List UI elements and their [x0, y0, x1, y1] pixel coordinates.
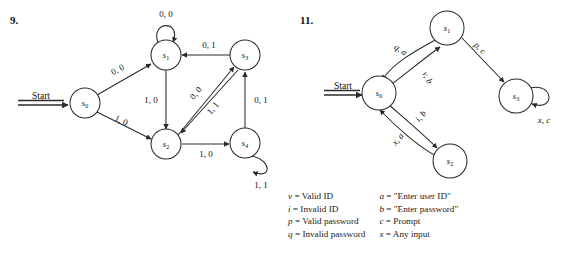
legend-text: Valid ID — [302, 191, 333, 201]
edge-label-s0-s1: v, b — [420, 70, 435, 86]
legend-item: q = Invalid password — [288, 228, 365, 241]
edge-label-s1-s3: p, c — [471, 39, 488, 56]
legend-item: a = "Enter user ID" — [379, 190, 458, 203]
legend-equals: = — [295, 229, 300, 239]
legend-text: Prompt — [393, 216, 420, 226]
legend-equals: = — [294, 191, 299, 201]
edge-label-s0-s2: i, b — [413, 108, 428, 124]
legend-text: Invalid ID — [300, 204, 338, 214]
edge-s4-s4-selfloop — [252, 156, 267, 174]
legend-text: "Enter password" — [394, 204, 458, 214]
edge-label-s2-s4: 1, 0 — [199, 149, 213, 159]
legend-symbol: x — [379, 229, 383, 239]
edge-label-s3-s3: x, c — [537, 115, 551, 125]
edge-label-s3-s1: 0, 1 — [202, 40, 216, 50]
edge-label-s0-s1: 0, 0 — [109, 61, 126, 77]
legend-item: c = Prompt — [379, 215, 458, 228]
edge-label-s1-s1: 0, 0 — [159, 9, 173, 19]
figure-11-diagram: Start q, a v, b p, c i, b x, a x, c s0 s… — [282, 0, 564, 190]
legend-item: x = Any input — [379, 228, 458, 241]
legend-text: "Enter user ID" — [394, 191, 451, 201]
legend-equals: = — [386, 204, 391, 214]
legend-item: p = Valid password — [288, 215, 365, 228]
edge-label-s0-s2: 1, 0 — [113, 113, 130, 128]
legend-symbol: q — [288, 229, 293, 239]
edge-label-s1-s0: q, a — [392, 42, 409, 58]
legend-column-left: v = Valid ID i = Invalid ID p = Valid pa… — [288, 190, 365, 240]
legend-symbol: a — [379, 191, 384, 201]
edge-label-s4-s3: 0, 1 — [254, 95, 268, 105]
legend: v = Valid ID i = Invalid ID p = Valid pa… — [288, 190, 558, 240]
legend-symbol: p — [288, 216, 293, 226]
edge-s2-s3 — [178, 67, 234, 135]
legend-text: Any input — [393, 229, 430, 239]
edge-label-s4-s4: 1, 1 — [254, 180, 268, 190]
legend-equals: = — [386, 216, 391, 226]
legend-equals: = — [386, 191, 391, 201]
legend-symbol: c — [379, 216, 383, 226]
edge-label-s2-s3: 0, 0 — [188, 84, 205, 101]
legend-text: Invalid password — [302, 229, 365, 239]
legend-text: Valid password — [302, 216, 358, 226]
edge-label-s1-s2: 1, 0 — [144, 95, 158, 105]
start-label: Start — [32, 91, 50, 101]
legend-symbol: i — [288, 204, 291, 214]
start-label: Start — [334, 81, 352, 91]
figure-page: 9. 11. Start 0, 0 1, 0 0, 0 0, 1 1, 0 0,… — [0, 0, 564, 263]
legend-symbol: v — [288, 191, 292, 201]
legend-item: v = Valid ID — [288, 190, 365, 203]
edge-s2-s0 — [380, 110, 438, 157]
figure-9-diagram: Start 0, 0 1, 0 0, 0 0, 1 1, 0 0, 0 1, 1… — [0, 0, 290, 200]
legend-column-right: a = "Enter user ID" b = "Enter password"… — [379, 190, 458, 240]
edge-s3-s2 — [181, 70, 238, 133]
legend-equals: = — [293, 204, 298, 214]
legend-symbol: b — [379, 204, 384, 214]
legend-item: i = Invalid ID — [288, 203, 365, 216]
edge-label-s3-s2: 1, 1 — [205, 100, 221, 117]
legend-equals: = — [295, 216, 300, 226]
legend-equals: = — [386, 229, 391, 239]
legend-item: b = "Enter password" — [379, 203, 458, 216]
